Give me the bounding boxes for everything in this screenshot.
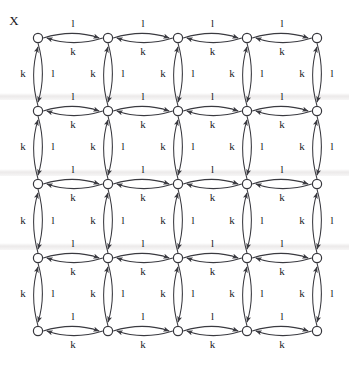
edge-label-horizontal-upper: l	[71, 163, 74, 175]
edge-label-vertical-left: k	[90, 287, 96, 299]
edge-label-horizontal-upper: l	[141, 310, 144, 322]
edge-label-vertical-left: k	[229, 140, 235, 152]
state-node[interactable]	[173, 33, 182, 42]
transition-arc-horizontal	[47, 331, 103, 336]
edge-label-horizontal-lower: k	[279, 338, 285, 350]
state-node[interactable]	[242, 106, 251, 115]
edge-label-horizontal-lower: k	[210, 118, 216, 130]
transition-arc-horizontal	[117, 184, 173, 189]
edge-label-vertical-right: l	[51, 67, 54, 79]
transition-arc-horizontal	[43, 33, 99, 38]
transition-arc-horizontal	[47, 38, 103, 43]
transition-arc-vertical	[38, 116, 42, 175]
transition-arc-vertical	[34, 120, 38, 179]
state-node[interactable]	[312, 33, 321, 42]
state-node[interactable]	[173, 106, 182, 115]
transition-arc-vertical	[178, 43, 182, 102]
transition-arc-horizontal	[43, 106, 99, 111]
transition-arc-vertical	[174, 193, 178, 253]
state-node[interactable]	[312, 106, 321, 115]
transition-arc-horizontal	[43, 179, 99, 184]
transition-arc-vertical	[243, 267, 247, 326]
edge-label-horizontal-lower: k	[70, 45, 76, 57]
edge-label-horizontal-upper: l	[211, 310, 214, 322]
transition-arc-horizontal	[117, 111, 173, 116]
transition-arc-vertical	[313, 120, 317, 179]
edge-label-horizontal-lower: k	[140, 45, 146, 57]
transition-arc-horizontal	[43, 326, 99, 331]
transition-arc-vertical	[34, 267, 38, 326]
edge-label-vertical-left: k	[299, 140, 305, 152]
state-node[interactable]	[33, 33, 42, 42]
transition-arc-horizontal	[252, 253, 308, 258]
transition-arc-vertical	[247, 263, 251, 322]
state-node[interactable]	[103, 106, 112, 115]
state-node[interactable]	[33, 326, 42, 335]
edge-label-horizontal-lower: k	[210, 45, 216, 57]
state-node[interactable]	[242, 179, 251, 188]
state-node[interactable]	[33, 179, 42, 188]
edge-label-horizontal-upper: l	[71, 237, 74, 249]
state-node[interactable]	[173, 253, 182, 262]
edge-label-vertical-left: k	[299, 287, 305, 299]
transition-arc-vertical	[108, 43, 112, 102]
transition-arc-vertical	[247, 43, 251, 102]
transition-arc-vertical	[174, 47, 178, 106]
nodes-layer	[33, 33, 321, 335]
state-node[interactable]	[173, 179, 182, 188]
edge-label-vertical-right: l	[330, 67, 333, 79]
state-node[interactable]	[33, 106, 42, 115]
transition-arc-horizontal	[183, 106, 238, 111]
transition-arc-vertical	[108, 263, 112, 322]
transition-arc-horizontal	[252, 33, 308, 38]
edge-label-horizontal-upper: l	[280, 90, 283, 102]
state-node[interactable]	[242, 253, 251, 262]
transition-arc-horizontal	[113, 179, 169, 184]
edge-label-horizontal-upper: l	[211, 237, 214, 249]
edge-label-horizontal-lower: k	[279, 45, 285, 57]
state-node[interactable]	[173, 326, 182, 335]
transition-arc-vertical	[317, 189, 321, 249]
edge-label-horizontal-upper: l	[141, 17, 144, 29]
transition-arc-horizontal	[113, 33, 169, 38]
transition-arc-vertical	[104, 120, 108, 179]
transition-arc-vertical	[243, 47, 247, 106]
state-node[interactable]	[312, 179, 321, 188]
transition-arc-horizontal	[256, 331, 312, 336]
edge-label-horizontal-lower: k	[70, 191, 76, 203]
edge-label-horizontal-lower: k	[140, 191, 146, 203]
transition-arc-vertical	[108, 189, 112, 249]
edge-label-horizontal-lower: k	[210, 265, 216, 277]
state-node[interactable]	[103, 326, 112, 335]
state-node[interactable]	[242, 33, 251, 42]
edge-label-horizontal-lower: k	[279, 191, 285, 203]
edge-label-vertical-right: l	[191, 287, 194, 299]
edge-label-horizontal-upper: l	[141, 163, 144, 175]
edge-label-vertical-left: k	[299, 214, 305, 226]
state-node[interactable]	[312, 326, 321, 335]
transition-arc-vertical	[317, 43, 321, 102]
edge-label-vertical-left: k	[90, 214, 96, 226]
state-node[interactable]	[242, 326, 251, 335]
state-node[interactable]	[103, 33, 112, 42]
transition-arc-horizontal	[183, 179, 238, 184]
edge-label-horizontal-lower: k	[70, 338, 76, 350]
transition-arc-vertical	[38, 189, 42, 249]
edge-label-vertical-left: k	[160, 140, 166, 152]
state-node[interactable]	[33, 253, 42, 262]
edge-label-vertical-right: l	[260, 140, 263, 152]
edge-label-horizontal-lower: k	[279, 265, 285, 277]
edge-label-vertical-left: k	[20, 214, 26, 226]
transition-arc-horizontal	[252, 106, 308, 111]
edge-label-horizontal-upper: l	[71, 17, 74, 29]
transition-arc-vertical	[313, 267, 317, 326]
state-node[interactable]	[103, 179, 112, 188]
edge-label-horizontal-upper: l	[141, 90, 144, 102]
transition-arc-vertical	[313, 47, 317, 106]
transition-arc-horizontal	[183, 253, 238, 258]
state-node[interactable]	[103, 253, 112, 262]
state-node[interactable]	[312, 253, 321, 262]
transition-arc-vertical	[104, 193, 108, 253]
transition-arc-vertical	[178, 116, 182, 175]
transition-arc-horizontal	[117, 331, 173, 336]
